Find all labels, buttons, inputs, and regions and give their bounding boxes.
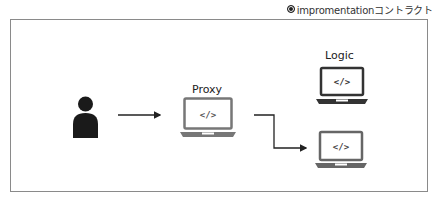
arrow-proxy-to-new-logic	[254, 115, 306, 148]
svg-text:</>: </>	[334, 77, 351, 87]
proxy-laptop-icon: </>	[180, 99, 236, 138]
person-icon	[73, 97, 98, 139]
diagram-canvas: </> </> </>	[0, 0, 439, 205]
svg-text:</>: </>	[333, 142, 350, 152]
logic-laptop-icon: </>	[316, 68, 368, 104]
svg-text:</>: </>	[200, 110, 217, 120]
new-logic-laptop-icon: </>	[315, 132, 367, 168]
